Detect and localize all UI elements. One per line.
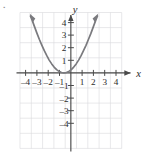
x-tick-label: 2	[91, 77, 96, 87]
x-tick-label: –2	[43, 77, 54, 87]
x-axis-label: x	[135, 68, 141, 79]
y-tick-label: 3	[62, 30, 67, 40]
y-tick-label: 1	[62, 56, 67, 66]
y-axis-label: y	[72, 4, 78, 15]
y-tick-label: –4	[58, 119, 69, 129]
y-tick-label: –1	[58, 81, 69, 91]
x-tick-label: –4	[20, 77, 31, 87]
coordinate-plane: –4 –3 –2 –1 1 2 3 4 4 3 2 1 –1 –2 –3 –4 …	[0, 0, 150, 156]
graph-figure: –4 –3 –2 –1 1 2 3 4 4 3 2 1 –1 –2 –3 –4 …	[0, 0, 150, 156]
corner-mark: ▪	[4, 5, 6, 10]
y-tick-label: –3	[58, 106, 69, 116]
y-tick-label: 4	[62, 18, 67, 28]
x-tick-label: 4	[114, 77, 119, 87]
y-tick-label: 2	[62, 43, 67, 53]
y-tick-label: –2	[58, 94, 69, 104]
x-tick-label: –3	[31, 77, 42, 87]
x-tick-label: 1	[80, 77, 85, 87]
x-tick-label: 3	[102, 77, 107, 87]
